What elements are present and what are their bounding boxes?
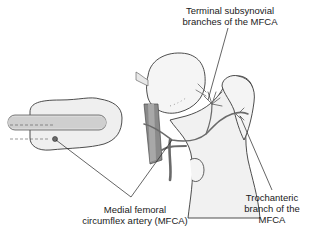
label-line: branch of the <box>234 203 310 214</box>
label-terminal-subsynovial-branches: Terminal subsynovial branches of the MFC… <box>180 5 280 27</box>
label-line: Trochanteric <box>234 192 310 203</box>
anatomy-diagram: Terminal subsynovial branches of the MFC… <box>0 0 311 235</box>
tendon-column <box>144 104 162 164</box>
label-line: Terminal subsynovial <box>180 5 280 16</box>
femoral-neck-cross-section <box>8 98 122 150</box>
label-line: Medial femoral <box>72 204 198 215</box>
label-medial-femoral-circumflex-artery: Medial femoral circumflex artery (MFCA) <box>72 204 198 226</box>
label-line: MFCA <box>234 214 310 225</box>
label-trochanteric-branch: Trochanteric branch of the MFCA <box>234 192 310 225</box>
label-line: branches of the MFCA <box>180 16 280 27</box>
label-line: circumflex artery (MFCA) <box>72 215 198 226</box>
